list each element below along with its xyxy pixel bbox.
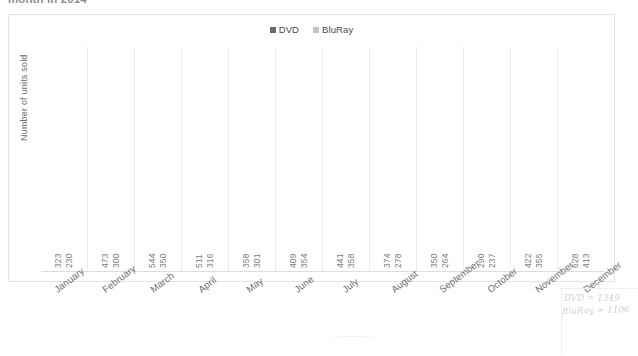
margin-rule-horizontal: [560, 288, 638, 289]
handwritten-annotations: DVD = 1349 BluRay = 1106: [564, 292, 636, 316]
legend-entry-dvd[interactable]: DVD: [270, 24, 299, 35]
handwritten-note-dvd-total: DVD = 1349: [564, 292, 636, 304]
x-axis-label-cell: August: [377, 284, 425, 346]
bar-value-label: 355: [534, 254, 544, 268]
chart-legend: DVD BluRay: [9, 24, 614, 35]
bar-value-label: 350: [429, 254, 439, 268]
bar-value-label: 413: [581, 254, 591, 268]
bar-value-label: 237: [487, 254, 497, 268]
bar-value-label: 374: [382, 254, 392, 268]
x-axis-label-cell: October: [473, 284, 521, 346]
bar-value-label: 441: [335, 254, 345, 268]
month-group: 374278: [369, 47, 416, 272]
x-axis-label-cell: June: [280, 284, 328, 346]
x-axis-label-cell: May: [232, 284, 280, 346]
bar-value-label: 358: [241, 254, 251, 268]
bar-value-label: 278: [393, 254, 403, 268]
bar-value-label: 316: [205, 254, 215, 268]
bar-value-label: 511: [194, 254, 204, 268]
legend-label-dvd: DVD: [279, 24, 299, 35]
month-group: 409354: [275, 47, 322, 272]
x-axis-label-cell: March: [136, 284, 184, 346]
month-group: 350264: [416, 47, 463, 272]
margin-rule-vertical: [561, 288, 562, 354]
x-axis-label-cell: February: [88, 284, 136, 346]
chart-frame: DVD BluRay Number of units sold 32323047…: [8, 14, 615, 282]
month-group: 544350: [134, 47, 181, 272]
bar-value-label: 354: [299, 254, 309, 268]
bar-value-label: 409: [288, 254, 298, 268]
month-group: 511316: [181, 47, 228, 272]
month-group: 358301: [228, 47, 275, 272]
bar-value-label: 301: [252, 254, 262, 268]
x-axis-label-cell: September: [425, 284, 473, 346]
legend-swatch-dvd: [270, 27, 276, 33]
x-axis-label-cell: January: [40, 284, 88, 346]
legend-entry-bluray[interactable]: BluRay: [313, 24, 353, 35]
bar-value-label: 358: [346, 254, 356, 268]
month-group: 290237: [463, 47, 510, 272]
bar-value-label: 230: [64, 254, 74, 268]
month-group: 628413: [557, 47, 604, 272]
month-group: 441358: [322, 47, 369, 272]
bar-value-label: 473: [100, 254, 110, 268]
bar-value-label: 350: [158, 254, 168, 268]
legend-label-bluray: BluRay: [322, 24, 353, 35]
bar-value-label: 300: [111, 254, 121, 268]
bar-value-label: 544: [147, 254, 157, 268]
page-smudge: [330, 336, 376, 347]
handwritten-note-bluray-total: BluRay = 1106: [562, 303, 634, 317]
bar-value-label: 323: [53, 254, 63, 268]
chart-screenshot: month in 2014 DVD BluRay Number of units…: [0, 0, 638, 356]
legend-swatch-bluray: [313, 27, 319, 33]
month-group: 473300: [87, 47, 134, 272]
y-axis-title: Number of units sold: [19, 54, 29, 141]
x-axis-labels: JanuaryFebruaryMarchAprilMayJuneJulyAugu…: [40, 284, 617, 346]
bar-value-label: 264: [440, 254, 450, 268]
plot-area: 3232304733005443505113163583014093544413…: [41, 47, 604, 272]
month-group: 323230: [41, 47, 87, 272]
bar-value-label: 422: [523, 254, 533, 268]
document-title-clipped: month in 2014: [8, 0, 87, 5]
x-axis-label-cell: April: [184, 284, 232, 346]
month-group: 422355: [510, 47, 557, 272]
